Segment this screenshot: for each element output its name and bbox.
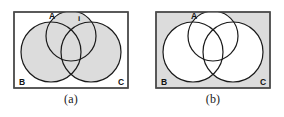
label-set-b: B (19, 77, 25, 87)
label-set-b: B (161, 77, 167, 87)
panel-a: A B C i (a) (0, 0, 142, 117)
caption-b: (b) (142, 92, 284, 106)
venn-figure-row: A B C i (a) (0, 0, 284, 117)
label-marker-i: i (78, 14, 80, 23)
label-set-c: C (118, 77, 124, 87)
caption-a: (a) (0, 92, 142, 106)
label-set-a: A (191, 11, 197, 21)
label-set-a: A (49, 11, 55, 21)
panel-b: A B C (b) (142, 0, 284, 117)
label-set-c: C (260, 77, 266, 87)
